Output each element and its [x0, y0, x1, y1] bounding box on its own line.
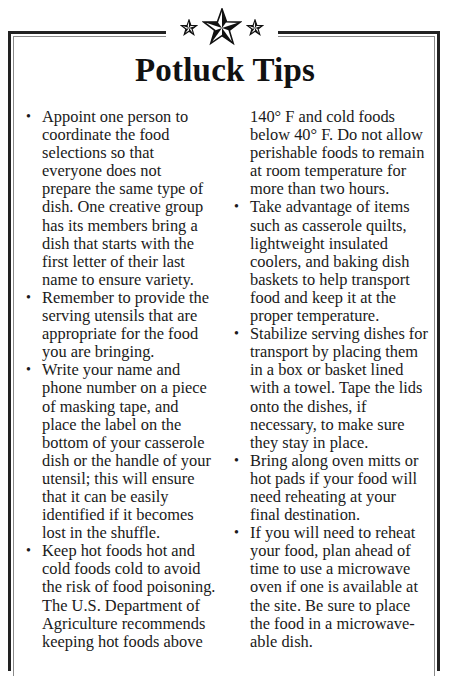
tip-line: dish or the handle of your — [42, 452, 226, 470]
tip-line: keeping hot foods above — [42, 633, 226, 651]
tip-line: If you will need to reheat — [250, 524, 434, 542]
tip-line: Take advantage of items — [250, 198, 434, 216]
tip-line: prepare the same type of — [42, 180, 226, 198]
tip-line: the risk of food poisoning. — [42, 578, 226, 596]
tip-line: onto the dishes, if — [250, 398, 434, 416]
tip-line: of masking tape, and — [42, 398, 226, 416]
tip-line: appropriate for the food — [42, 325, 226, 343]
tip-line: Bring along oven mitts or — [250, 452, 434, 470]
tip-line: utensil; this will ensure — [42, 470, 226, 488]
tip-line: with a towel. Tape the lids — [250, 379, 434, 397]
tips-list-left: • Appoint one person to coordinate the f… — [26, 108, 226, 651]
tip-line: bottom of your casserole — [42, 434, 226, 452]
tip-line: food and keep it at the — [250, 289, 434, 307]
tip-line: that it can be easily — [42, 488, 226, 506]
large-nautical-star-icon — [202, 8, 242, 48]
tip-line: Agriculture recommends — [42, 615, 226, 633]
tips-list-right: • Take advantage of items such as casser… — [234, 198, 434, 650]
tip-line: transport by placing them — [250, 343, 434, 361]
tip-line: The U.S. Department of — [42, 597, 226, 615]
tip-line: Remember to provide the — [42, 289, 226, 307]
tip-line: place the label on the — [42, 416, 226, 434]
tip-line: lost in the shuffle. — [42, 524, 226, 542]
tip-line: your food, plan ahead of — [250, 542, 434, 560]
tip-item: • Write your name and phone number on a … — [26, 361, 226, 542]
small-star-icon — [246, 19, 264, 37]
bullet-icon: • — [234, 198, 239, 216]
tip-line: selections so that — [42, 144, 226, 162]
tip-line: lightweight insulated — [250, 235, 434, 253]
tip-line: 140° F and cold foods — [250, 108, 434, 126]
tip-line: at room temperature for — [250, 162, 434, 180]
tip-item: • Stabilize serving dishes for transport… — [234, 325, 434, 452]
tip-line: more than two hours. — [250, 180, 434, 198]
tip-line: you are bringing. — [42, 343, 226, 361]
tip-item: • Remember to provide the serving utensi… — [26, 289, 226, 361]
tip-line: Keep hot foods hot and — [42, 542, 226, 560]
page-title: Potluck Tips — [0, 52, 450, 89]
bullet-icon: • — [26, 361, 31, 379]
tip-line: proper temperature. — [250, 307, 434, 325]
tip-line: everyone does not — [42, 162, 226, 180]
tip-line: oven if one is available at — [250, 578, 434, 596]
tip-line: dish that starts with the — [42, 235, 226, 253]
tip-line: need reheating at your — [250, 488, 434, 506]
tip-line: coordinate the food — [42, 126, 226, 144]
tip-line: phone number on a piece — [42, 379, 226, 397]
star-ornament — [166, 8, 278, 48]
tip-item: • Take advantage of items such as casser… — [234, 198, 434, 325]
tip-item: • Bring along oven mitts or hot pads if … — [234, 452, 434, 524]
tip-line: time to use a microwave — [250, 560, 434, 578]
tip-line: hot pads if your food will — [250, 470, 434, 488]
bullet-icon: • — [234, 524, 239, 542]
tip-item: • Appoint one person to coordinate the f… — [26, 108, 226, 289]
tip-line: coolers, and baking dish — [250, 253, 434, 271]
bullet-icon: • — [234, 325, 239, 343]
left-column: • Appoint one person to coordinate the f… — [26, 108, 226, 651]
tip-line: dish. One creative group — [42, 198, 226, 216]
bullet-icon: • — [26, 108, 31, 126]
tip-line: baskets to help transport — [250, 271, 434, 289]
tip-line: perishable foods to remain — [250, 144, 434, 162]
tip-line: able dish. — [250, 633, 434, 651]
tip-item: • If you will need to reheat your food, … — [234, 524, 434, 651]
tip-line: in a box or basket lined — [250, 361, 434, 379]
tip-line: final destination. — [250, 506, 434, 524]
tip-line: Stabilize serving dishes for — [250, 325, 434, 343]
small-star-icon — [180, 19, 198, 37]
tip-line: name to ensure variety. — [42, 271, 226, 289]
tip-line: Write your name and — [42, 361, 226, 379]
bullet-icon: • — [26, 542, 31, 560]
tip-item: • Keep hot foods hot and cold foods cold… — [26, 542, 226, 651]
tip-line: cold foods cold to avoid — [42, 560, 226, 578]
tip-line: has its members bring a — [42, 217, 226, 235]
right-column: 140° F and cold foods below 40° F. Do no… — [234, 108, 434, 651]
tip-continuation: 140° F and cold foods below 40° F. Do no… — [234, 108, 434, 198]
tip-line: Appoint one person to — [42, 108, 226, 126]
tip-line: they stay in place. — [250, 434, 434, 452]
tip-line: the food in a microwave- — [250, 615, 434, 633]
tip-line: below 40° F. Do not allow — [250, 126, 434, 144]
tip-line: first letter of their last — [42, 253, 226, 271]
bullet-icon: • — [26, 289, 31, 307]
tip-line: necessary, to make sure — [250, 416, 434, 434]
tip-line: such as casserole quilts, — [250, 217, 434, 235]
tip-line: identified if it becomes — [42, 506, 226, 524]
tip-line: the site. Be sure to place — [250, 597, 434, 615]
bullet-icon: • — [234, 452, 239, 470]
tip-line: serving utensils that are — [42, 307, 226, 325]
